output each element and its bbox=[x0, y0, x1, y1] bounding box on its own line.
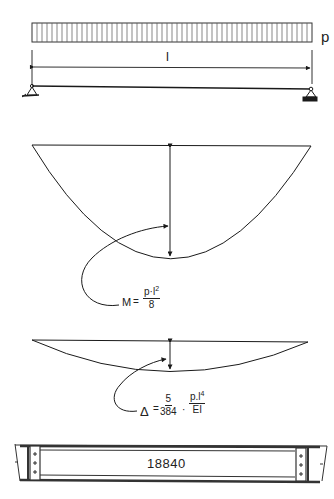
distributed-load-band bbox=[32, 23, 312, 42]
moment-fraction: p·l2 8 bbox=[143, 287, 160, 310]
moment-symbol: M bbox=[122, 297, 131, 308]
deflection-numerator: p.l bbox=[190, 391, 201, 402]
equals-sign: = bbox=[153, 404, 159, 414]
coef-numerator: 5 bbox=[165, 394, 173, 406]
deflection-fraction: p.l4 EI bbox=[189, 392, 205, 415]
span-label: l bbox=[166, 50, 169, 63]
diagram-canvas bbox=[0, 0, 334, 499]
load-label: p bbox=[321, 29, 329, 44]
equals-sign: = bbox=[133, 297, 139, 307]
coefficient-fraction: 5 384 bbox=[160, 394, 177, 417]
multiply-dot: · bbox=[182, 405, 185, 415]
girder-label: 18840 bbox=[147, 457, 186, 470]
deflection-exponent: 4 bbox=[201, 390, 205, 397]
deflection-denominator: EI bbox=[193, 404, 202, 415]
delta-symbol: Δ bbox=[140, 405, 149, 418]
beam-line bbox=[32, 86, 311, 89]
moment-exponent: 2 bbox=[155, 285, 159, 292]
coef-denominator: 384 bbox=[160, 406, 177, 417]
span-dimension-line bbox=[32, 50, 312, 84]
moment-denominator: 8 bbox=[149, 299, 155, 310]
moment-numerator: p·l bbox=[144, 286, 155, 297]
bending-moment-diagram bbox=[32, 145, 311, 306]
